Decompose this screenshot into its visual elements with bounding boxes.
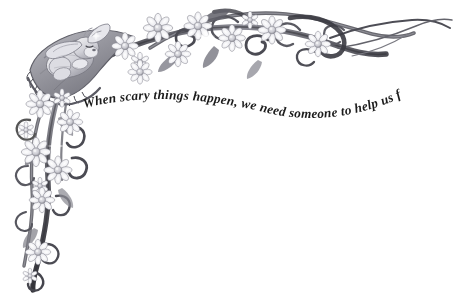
corner-border-illustration: When scary things happen, we need someon… — [0, 0, 460, 294]
illustration-page: When scary things happen, we need someon… — [0, 0, 460, 294]
